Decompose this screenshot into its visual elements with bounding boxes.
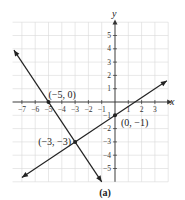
point-label: (0, −1) (121, 117, 148, 129)
x-tick-label: −4 (58, 105, 66, 114)
y-tick-label: −2 (103, 124, 111, 133)
axes: −7−6−5−4−3−2−112354321−1−2−3−4−5 (13, 20, 173, 182)
y-tick-label: 4 (107, 44, 111, 53)
arrow-icon (96, 175, 101, 181)
point-label: (−5, 0) (49, 89, 76, 101)
x-tick-label: −2 (84, 105, 92, 114)
y-tick-label: −5 (103, 164, 111, 173)
y-tick-label: 3 (107, 58, 111, 67)
point-labels: (−5, 0)(−3, −3)(0, −1) (38, 89, 148, 148)
point-label: (−3, −3) (38, 136, 71, 148)
x-tick-label: −3 (71, 105, 79, 114)
y-tick-label: −4 (103, 151, 111, 160)
arrow-icon (22, 172, 28, 177)
coordinate-plane: −7−6−5−4−3−2−112354321−1−2−3−4−5 (−5, 0)… (0, 0, 185, 200)
arrow-icon (160, 81, 166, 86)
arrow-icon (14, 50, 19, 56)
x-tick-label: 3 (153, 105, 157, 114)
point-marker (113, 113, 117, 117)
x-tick-label: −7 (18, 105, 26, 114)
x-tick-label: 2 (140, 105, 144, 114)
plotted-lines (14, 50, 167, 182)
figure-caption: (a) (99, 187, 111, 199)
point-marker (73, 140, 77, 144)
y-tick-label: 2 (107, 71, 111, 80)
x-axis-label: x (169, 96, 175, 107)
y-tick-label: 5 (107, 31, 111, 40)
x-tick-label: −6 (31, 105, 39, 114)
point-marker (47, 100, 51, 104)
y-tick-label: −3 (103, 137, 111, 146)
y-axis-label: y (111, 8, 117, 19)
y-tick-label: 1 (107, 84, 111, 93)
